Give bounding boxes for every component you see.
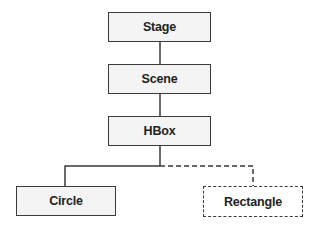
node-scene-label: Scene	[142, 72, 178, 86]
node-hbox-label: HBox	[144, 124, 176, 138]
node-stage: Stage	[108, 12, 211, 42]
node-circle: Circle	[16, 186, 116, 216]
node-circle-label: Circle	[49, 194, 83, 208]
node-hbox: HBox	[108, 116, 211, 146]
node-rectangle-label: Rectangle	[224, 195, 282, 209]
node-stage-label: Stage	[143, 20, 176, 34]
edge-hbox-circle	[65, 166, 160, 186]
node-rectangle: Rectangle	[203, 186, 303, 217]
node-scene: Scene	[108, 64, 211, 94]
edge-hbox-rectangle	[160, 166, 253, 186]
